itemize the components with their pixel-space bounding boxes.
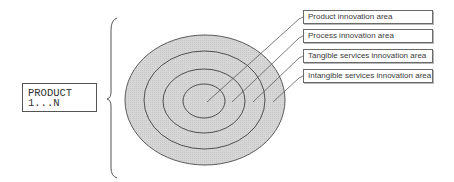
label-tangible-services-innovation-area: Tangible services innovation area	[303, 49, 433, 63]
label-text: Product innovation area	[308, 12, 393, 21]
label-text: Process innovation area	[308, 31, 394, 40]
product-box: PRODUCT 1...N	[22, 83, 97, 112]
label-text: Intangible services innovation area	[308, 71, 431, 80]
label-intangible-services-innovation-area: Intangible services innovation area	[303, 69, 433, 83]
ring-intangible-services	[125, 35, 285, 165]
label-text: Tangible services innovation area	[308, 51, 426, 60]
product-box-line2: 1...N	[28, 98, 96, 108]
innovation-areas-diagram: PRODUCT 1...N Product innovation area Pr…	[0, 0, 454, 182]
label-product-innovation-area: Product innovation area	[303, 10, 433, 24]
label-process-innovation-area: Process innovation area	[303, 29, 433, 43]
curly-brace	[107, 18, 117, 178]
